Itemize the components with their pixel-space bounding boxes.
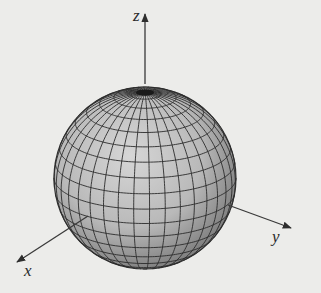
y-axis-label: y (272, 228, 280, 245)
x-axis-label: x (24, 262, 32, 279)
z-axis-label: z (133, 7, 140, 24)
sphere-figure (0, 0, 321, 293)
sphere-diagram: z x y (0, 0, 321, 293)
y-axis (228, 205, 291, 228)
